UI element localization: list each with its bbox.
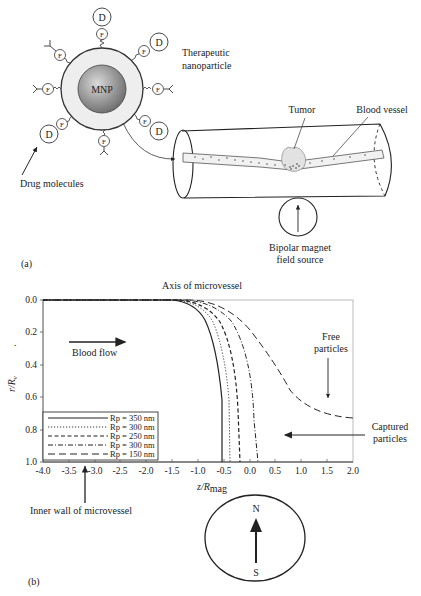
drug-ligand-bottom-left: F D [40, 116, 72, 143]
svg-text:D: D [45, 129, 52, 140]
svg-text:F: F [142, 48, 146, 56]
svg-text:F: F [156, 86, 160, 94]
nanoparticle: MNP F D F D F F [33, 8, 173, 155]
x-tick-labels: -4.0 -3.5 -3.0 -2.5 -2.0 -1.5 -1.0 -0.5 … [35, 466, 359, 476]
inner-wall-label: Inner wall of microvessel [30, 505, 132, 516]
svg-text:F: F [100, 31, 104, 39]
mnp-label: MNP [91, 84, 113, 95]
tumor [282, 147, 306, 171]
vessel-diagram [173, 117, 391, 198]
svg-text:0.2: 0.2 [25, 327, 37, 337]
svg-text:-1.0: -1.0 [190, 466, 205, 476]
axis-of-microvessel-label: Axis of microvessel [162, 280, 242, 291]
svg-text:0.4: 0.4 [25, 360, 37, 370]
svg-text:0.6: 0.6 [25, 392, 37, 402]
svg-text:F: F [58, 52, 62, 60]
svg-text:-2.5: -2.5 [112, 466, 127, 476]
svg-text:0.8: 0.8 [25, 425, 37, 435]
figure: MNP F D F D F F [0, 0, 421, 596]
tumor-pointer [294, 118, 305, 149]
captured-particles-label-2: particles [373, 433, 407, 444]
svg-text:-0.5: -0.5 [216, 466, 231, 476]
svg-text:1.5: 1.5 [321, 466, 333, 476]
magnet-compass: N S [205, 495, 305, 581]
legend-item: Rp = 150 nm [110, 449, 155, 459]
svg-text:F: F [102, 138, 106, 146]
therapeutic-label: Therapeutic [182, 47, 230, 58]
drug-ligand-bottom-right: F D [134, 114, 168, 140]
antibody-ligand-right: F [143, 84, 173, 95]
drug-ligand-top: F D [93, 8, 111, 48]
svg-text:D: D [155, 37, 162, 48]
blood-vessel-label: Blood vessel [356, 104, 408, 115]
svg-text:-1.5: -1.5 [164, 466, 179, 476]
svg-text:1.0: 1.0 [295, 466, 307, 476]
north-label: N [252, 503, 259, 514]
svg-text:D: D [98, 12, 105, 23]
svg-text:2.0: 2.0 [347, 466, 359, 476]
curve-rp-150 [43, 300, 353, 418]
antibody-ligand-top-left: F [44, 40, 70, 63]
captured-particles-label: Captured [372, 421, 409, 432]
antibody-ligand-left: F [33, 84, 61, 95]
blood-flow-label: Blood flow [72, 347, 118, 358]
x-axis-title: z/Rmag [196, 481, 227, 494]
svg-text:.: . [14, 337, 17, 348]
panel-b-label: (b) [28, 576, 40, 588]
therapeutic-label-2: nanoparticle [182, 60, 232, 71]
svg-text:-2.0: -2.0 [138, 466, 153, 476]
svg-text:0.0: 0.0 [244, 466, 256, 476]
svg-text:F: F [143, 118, 147, 126]
antibody-ligand-bottom: F [99, 130, 110, 155]
y-tick-labels: 0.0 0.2 0.4 0.6 0.8 1.0 [25, 295, 37, 467]
svg-text:0.0: 0.0 [25, 295, 37, 305]
svg-text:F: F [60, 121, 64, 129]
drug-molecules-label: Drug molecules [20, 178, 84, 189]
vessel-pointer [333, 117, 368, 156]
svg-text:D: D [155, 126, 162, 137]
y-axis-title: r/Rv [6, 375, 19, 392]
panel-a-label: (a) [21, 258, 32, 270]
free-particles-label: Free [322, 331, 340, 342]
bipolar-magnet-source [279, 198, 317, 236]
drug-ligand-top-right: F D [132, 33, 168, 60]
svg-text:0.5: 0.5 [269, 466, 281, 476]
tumor-label: Tumor [289, 104, 317, 115]
drug-arrow [22, 147, 37, 175]
svg-text:-3.5: -3.5 [61, 466, 76, 476]
free-particles-label-2: particles [314, 343, 348, 354]
svg-text:-3.0: -3.0 [87, 466, 102, 476]
magnet-label-2: field source [277, 254, 324, 265]
magnet-label: Bipolar magnet [269, 242, 331, 253]
svg-text:-4.0: -4.0 [35, 466, 50, 476]
legend: Rp = 350 nm Rp = 300 nm Rp = 250 nm Rp =… [43, 412, 158, 460]
svg-text:F: F [46, 86, 50, 94]
south-label: S [253, 567, 259, 578]
chart: 0.0 0.2 0.4 0.6 0.8 1.0 -4.0 -3.5 -3.0 -… [6, 295, 408, 516]
